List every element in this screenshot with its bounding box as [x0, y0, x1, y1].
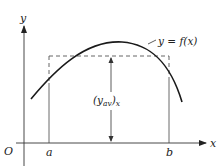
x-axis-label: x	[210, 137, 217, 150]
curve-label-leader	[148, 40, 156, 44]
y-axis-label: y	[19, 12, 27, 25]
b-label: b	[166, 146, 173, 159]
average-label-outer-sub: x	[116, 99, 121, 108]
a-label: a	[46, 146, 53, 159]
average-label: (yav)x	[93, 94, 121, 108]
mean-value-diagram: y x O a b y = f(x) (yav)x	[0, 0, 219, 168]
curve-label: y = f(x)	[157, 35, 197, 47]
function-curve	[31, 42, 182, 102]
origin-label: O	[4, 145, 13, 158]
